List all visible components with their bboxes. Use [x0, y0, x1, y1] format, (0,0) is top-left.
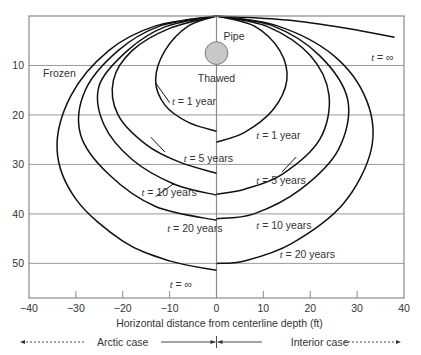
- interior-center-arrowhead: [218, 340, 223, 344]
- pipe-label: Pipe: [224, 30, 245, 42]
- curve-annotation: t = ∞: [371, 51, 393, 63]
- curve-annotation: t = 20 years: [167, 222, 222, 234]
- curve-annotation: t = 10 years: [142, 186, 197, 198]
- y-tick-label: 30: [12, 158, 24, 170]
- curve-annotation: t = 1 year: [172, 95, 217, 107]
- interior-t-10-years-curve: [217, 16, 349, 219]
- interior-right-arrowhead: [396, 340, 401, 344]
- pipe-circle: [205, 42, 228, 65]
- curve-annotation: t = 1 year: [256, 129, 301, 141]
- interior-t-5-years-curve: [217, 16, 330, 194]
- frozen-label: Frozen: [43, 67, 76, 79]
- arctic-center-arrowhead: [211, 340, 216, 344]
- x-tick-label: 10: [258, 302, 270, 314]
- curve-annotation: t = 5 years: [184, 152, 233, 164]
- x-tick-label: 20: [304, 302, 316, 314]
- x-tick-label: −10: [161, 302, 179, 314]
- thaw-bulb-chart: 1020304050 −40−30−20−10010203040 Frozen …: [0, 0, 421, 355]
- x-tick-label: −40: [20, 302, 38, 314]
- x-tick-label: 0: [214, 302, 220, 314]
- y-tick-label: 50: [12, 257, 24, 269]
- x-tick-label: 30: [351, 302, 363, 314]
- interior-case-label: Interior case: [291, 336, 349, 348]
- x-axis-label: Horizontal distance from centerline dept…: [116, 317, 323, 329]
- x-tick-label: 40: [398, 302, 410, 314]
- curve-annotation: t = 10 years: [256, 219, 311, 231]
- curve-annotation: t = 20 years: [280, 248, 335, 260]
- arctic-case-label: Arctic case: [97, 336, 149, 348]
- case-indicator: Arctic case Interior case: [20, 336, 401, 348]
- x-tick-label: −30: [67, 302, 85, 314]
- x-tick-label: −20: [114, 302, 132, 314]
- y-tick-label: 40: [12, 208, 24, 220]
- axis-ticks: −40−30−20−10010203040: [20, 291, 410, 314]
- arctic-left-arrowhead: [20, 340, 25, 344]
- curve-annotation: t = ∞: [170, 278, 192, 290]
- curve-annotation: t = 5 years: [256, 174, 305, 186]
- y-tick-label: 20: [12, 109, 24, 121]
- y-tick-label: 10: [12, 59, 24, 71]
- thawed-label: Thawed: [198, 72, 236, 84]
